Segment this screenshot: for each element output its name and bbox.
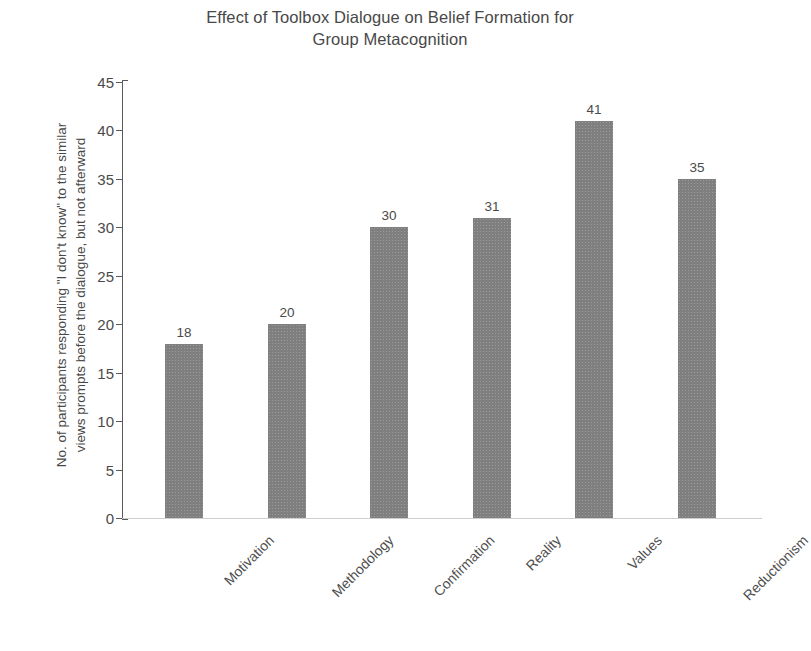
bar-value-label: 41 (564, 102, 624, 117)
y-axis-tick-label: 15 (74, 365, 114, 382)
bar (268, 324, 306, 518)
y-axis-tick-mark (116, 518, 122, 519)
bar-value-label: 18 (154, 325, 214, 340)
x-axis-category-label: Motivation (221, 532, 277, 588)
y-axis-spine-cap-top (122, 80, 128, 81)
y-axis-tick-label: 30 (74, 219, 114, 236)
bar-value-label: 31 (462, 199, 522, 214)
y-axis-spine (122, 80, 123, 520)
x-axis-baseline (122, 518, 762, 519)
x-axis-category-label: Methodology (328, 532, 396, 600)
x-axis-category-label: Confirmation (430, 532, 497, 599)
x-axis-category-label: Values (625, 532, 666, 573)
y-axis-tick-label: 5 (74, 462, 114, 479)
y-axis-tick-label: 25 (74, 268, 114, 285)
y-axis-tick-labels: 454035302520151050 (70, 0, 114, 651)
bar (678, 179, 716, 518)
y-axis-tick-label: 0 (74, 510, 114, 527)
y-axis-tick-mark (116, 276, 122, 277)
bar (165, 344, 203, 518)
x-axis-category-label: Reality (522, 532, 564, 574)
bar (575, 121, 613, 518)
bar-value-label: 20 (257, 305, 317, 320)
y-axis-tick-label: 35 (74, 171, 114, 188)
y-axis-tick-mark (116, 227, 122, 228)
y-axis-tick-mark (116, 82, 122, 83)
y-axis-tick-mark (116, 130, 122, 131)
bar-value-label: 30 (359, 208, 419, 223)
bar-value-label: 35 (667, 160, 727, 175)
y-axis-tick-label: 45 (74, 74, 114, 91)
y-axis-label-container: No. of participants responding "I don't … (14, 62, 54, 532)
y-axis-tick-mark (116, 470, 122, 471)
y-axis-spine-cap-bottom (122, 519, 128, 520)
y-axis-tick-mark (116, 373, 122, 374)
x-axis-category-label: Reductionism (740, 532, 811, 603)
y-axis-tick-mark (116, 421, 122, 422)
y-axis-tick-label: 20 (74, 316, 114, 333)
y-axis-tick-label: 10 (74, 413, 114, 430)
chart-title: Effect of Toolbox Dialogue on Belief For… (120, 6, 660, 50)
y-axis-tick-mark (116, 324, 122, 325)
y-axis-tick-label: 40 (74, 122, 114, 139)
y-axis-tick-mark (116, 179, 122, 180)
bar (370, 227, 408, 518)
bar (473, 218, 511, 518)
